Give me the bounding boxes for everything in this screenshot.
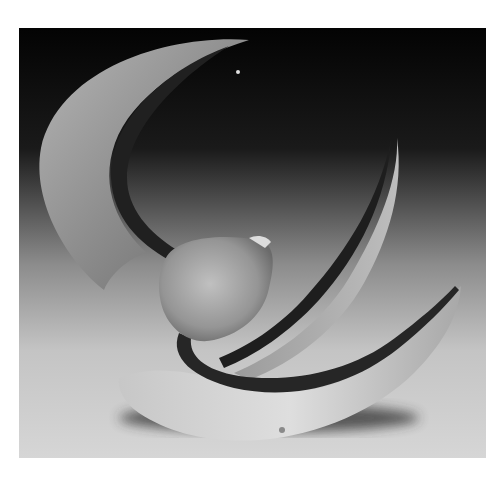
sculpture-photo: Grayscale photograph of an abstract scul… (19, 28, 486, 458)
pod-hole (279, 427, 285, 433)
highlight (236, 70, 240, 74)
sculpture-illustration (19, 28, 486, 458)
